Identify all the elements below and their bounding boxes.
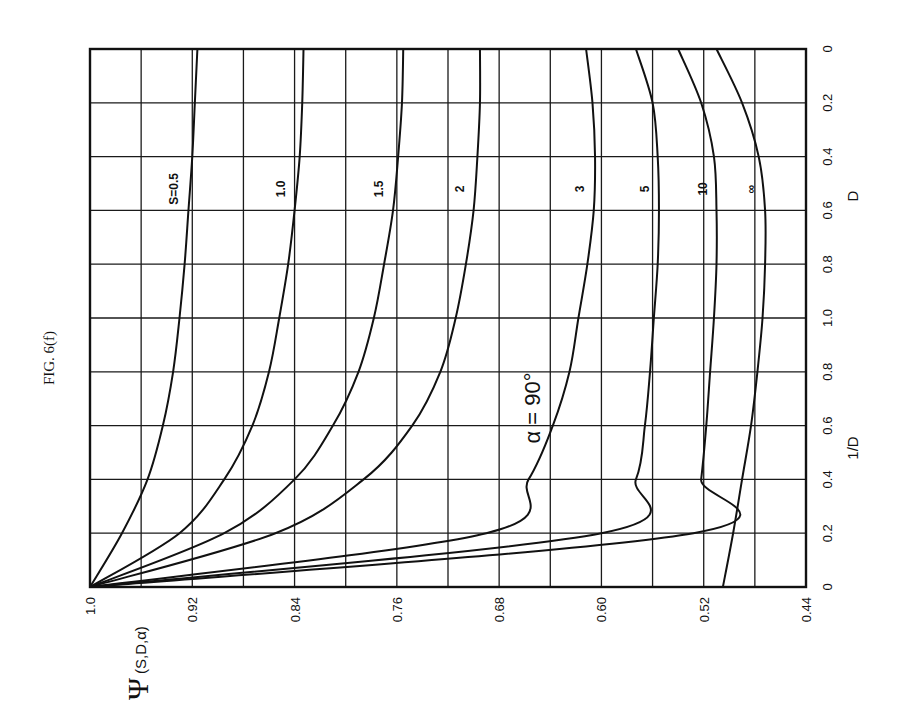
grid-lines [90, 49, 806, 587]
curve-label: 1.5 [372, 180, 386, 197]
psi-arguments: (S,D,α) [132, 626, 149, 674]
psi-tick-label: 0.92 [185, 597, 200, 622]
psi-tick-label: 0.76 [390, 597, 405, 622]
curve-label: ∞ [744, 185, 758, 194]
alpha-annotation: α = 90° [520, 372, 545, 443]
one-over-d-tick-label: 0.6 [820, 417, 835, 435]
one-over-d-tick-label: 1.0 [820, 309, 835, 327]
curve-label: 10 [696, 182, 710, 196]
curve-labels: S=0.51.01.523510∞ [167, 173, 758, 205]
curve-label: 1.0 [274, 180, 288, 197]
d-tick-label: 0.8 [820, 255, 835, 273]
curve-label: 2 [453, 185, 467, 192]
x-axis-title-1-over-d: 1/D [844, 436, 861, 460]
x-axis-title-d: D [844, 190, 861, 201]
psi-tick-label: 0.68 [492, 597, 507, 622]
one-over-d-tick-label: 0.2 [820, 524, 835, 542]
y-axis-title: Ψ (S,D,α) [121, 626, 154, 700]
one-over-d-tick-label: 0.4 [820, 470, 835, 488]
psi-tick-label: 0.52 [697, 597, 712, 622]
one-over-d-tick-label: 0.8 [820, 363, 835, 381]
curve-label: 5 [638, 185, 652, 192]
psi-tick-label: 0.44 [799, 597, 814, 622]
curve-label: 3 [573, 185, 587, 192]
psi-tick-label: 0.60 [594, 597, 609, 622]
tick-labels: 1.00.920.840.760.680.600.520.4400.20.40.… [83, 45, 835, 622]
curve-label: S=0.5 [167, 173, 181, 205]
one-over-d-tick-label: 0 [820, 583, 835, 590]
psi-symbol: Ψ [121, 677, 154, 700]
figure-title: FIG. 6(f) [41, 331, 58, 385]
psi-tick-label: 0.84 [288, 597, 303, 622]
d-tick-label: 0.2 [820, 94, 835, 112]
d-tick-label: 0 [820, 45, 835, 52]
d-tick-label: 0.4 [820, 148, 835, 166]
chart: 1.00.920.840.760.680.600.520.4400.20.40.… [0, 0, 898, 714]
psi-tick-label: 1.0 [83, 597, 98, 615]
d-tick-label: 0.6 [820, 201, 835, 219]
